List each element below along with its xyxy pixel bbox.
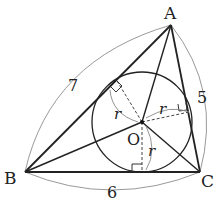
side-label-ac: 5 xyxy=(197,88,207,107)
radius-label-ac: r xyxy=(159,100,167,118)
vertex-label-c: C xyxy=(201,171,214,191)
triangle-incircle-diagram: A B C O 7 5 6 r r r xyxy=(0,0,224,213)
radius-label-bc: r xyxy=(148,142,156,160)
radius-label-ab: r xyxy=(114,105,122,123)
side-label-bc: 6 xyxy=(107,183,117,202)
incenter-point xyxy=(140,120,144,124)
incenter-label: O xyxy=(127,130,140,149)
vertex-label-b: B xyxy=(4,168,17,188)
segment-bo xyxy=(25,122,142,172)
vertex-label-a: A xyxy=(163,3,177,23)
side-label-ab: 7 xyxy=(68,76,78,95)
